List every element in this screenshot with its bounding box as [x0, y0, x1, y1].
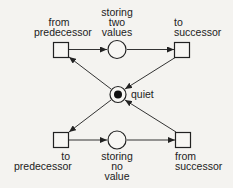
- label-storing-two-values: storing two values: [97, 7, 137, 37]
- label-to-predecessor: to predecessor: [14, 151, 70, 171]
- arc-tosucc-to-quiet: [125, 57, 176, 89]
- place-storing-two-values: [108, 41, 126, 59]
- transition-to-predecessor: [54, 133, 69, 148]
- label-from-successor: from successor: [175, 151, 222, 171]
- label-storing-no-value: storing no value: [97, 151, 137, 181]
- label-from-predecessor: from predecessor: [34, 17, 84, 37]
- transition-to-successor: [175, 43, 190, 58]
- place-storing-no-value: [108, 131, 126, 149]
- transition-from-predecessor: [54, 43, 69, 58]
- label-quiet: quiet: [131, 89, 154, 99]
- label-to-successor: to successor: [174, 17, 221, 37]
- token-icon: [114, 91, 122, 99]
- transition-from-successor: [176, 133, 191, 148]
- arc-fromsucc-to-quiet: [125, 100, 176, 132]
- arc-quiet-to-topred: [69, 100, 111, 132]
- arc-quiet-to-frompred: [69, 57, 111, 89]
